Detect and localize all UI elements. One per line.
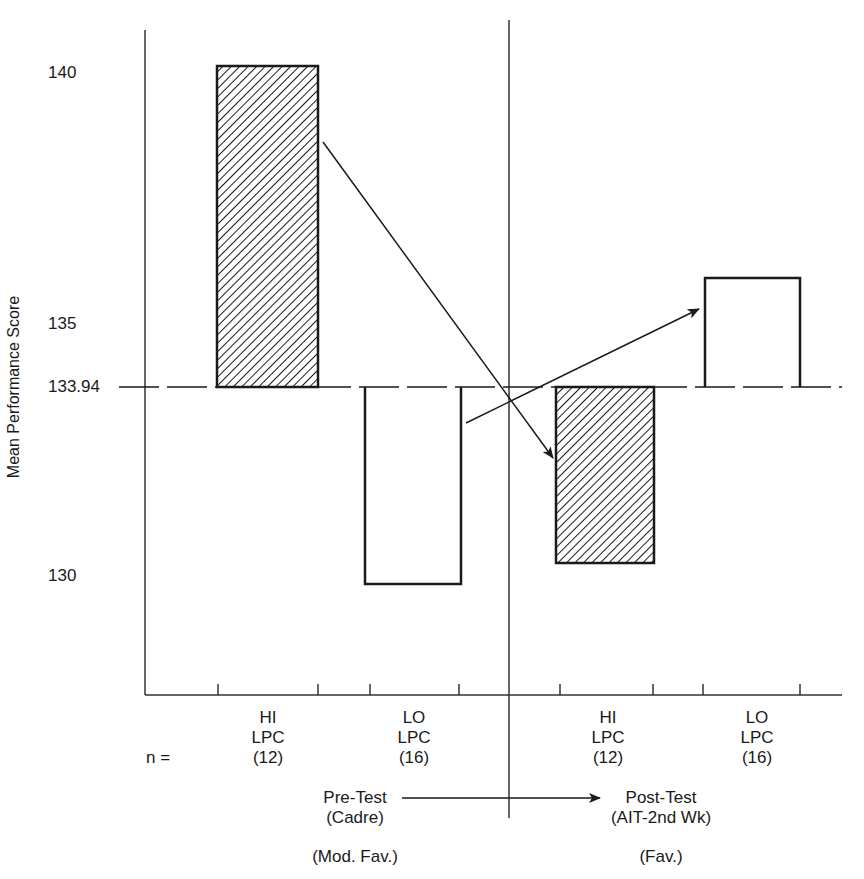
y-tick-135: 135 xyxy=(48,314,76,334)
bar-post-hi-lpc xyxy=(556,387,654,563)
favorability-pre: (Mod. Fav.) xyxy=(280,847,430,867)
category-label-post-hi: HI LPC (12) xyxy=(568,708,648,768)
category-label-post-lo: LO LPC (16) xyxy=(717,708,797,768)
favorability-post: (Fav.) xyxy=(611,847,711,867)
bar-pre-hi-lpc xyxy=(217,66,318,387)
bar-pre-lo-lpc xyxy=(365,387,461,584)
group-label-pre: Pre-Test (Cadre) xyxy=(300,788,410,828)
bar-post-lo-lpc xyxy=(705,278,800,387)
arrow-hi-lpc-change xyxy=(323,142,553,458)
y-tick-130: 130 xyxy=(48,566,76,586)
category-label-pre-lo: LO LPC (16) xyxy=(374,708,454,768)
group-label-post: Post-Test (AIT-2nd Wk) xyxy=(596,788,726,828)
category-label-pre-hi: HI LPC (12) xyxy=(228,708,308,768)
n-label: n = xyxy=(146,748,170,768)
y-tick-baseline: 133.94 xyxy=(48,377,100,397)
y-tick-140: 140 xyxy=(48,63,76,83)
